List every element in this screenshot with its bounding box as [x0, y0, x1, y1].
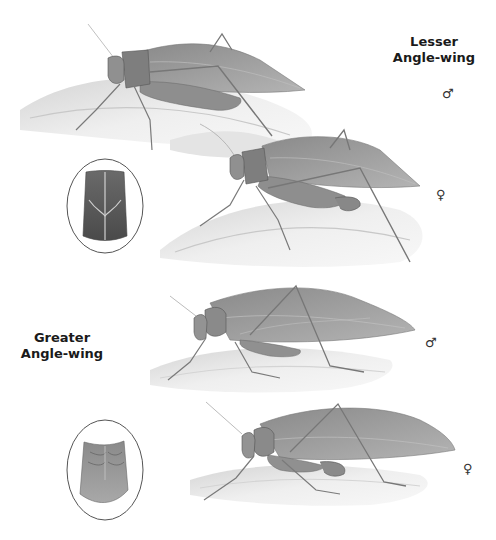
pronotum-detail [80, 441, 128, 503]
illustration-plate [0, 0, 496, 540]
pronotum [205, 307, 226, 336]
greater-female-figure [190, 402, 455, 506]
head [194, 315, 207, 340]
antenna [170, 296, 196, 316]
species-label-greater-angle-wing: Greater Angle-wing [2, 330, 122, 362]
female-symbol-icon: ♀ [463, 462, 473, 475]
male-symbol-icon: ♂ [442, 87, 454, 100]
species-name-line2: Angle-wing [2, 346, 122, 362]
head [108, 56, 124, 83]
species-name-line2: Angle-wing [384, 50, 484, 66]
antenna [88, 24, 114, 58]
head [242, 433, 255, 458]
species-name-line1: Lesser [384, 34, 484, 50]
greater-male-figure [150, 286, 415, 392]
pronotum [242, 148, 268, 184]
lesser-pronotum-inset [67, 159, 143, 253]
antenna [206, 402, 242, 434]
greater-pronotum-inset [67, 420, 143, 520]
species-label-lesser-angle-wing: Lesser Angle-wing [384, 34, 484, 66]
pronotum [254, 427, 274, 456]
lesser-female-figure [160, 124, 423, 267]
pronotum [122, 50, 150, 88]
lesser-male-figure [20, 24, 312, 150]
female-symbol-icon: ♀ [436, 188, 446, 201]
species-name-line1: Greater [2, 330, 122, 346]
wing [260, 408, 455, 460]
head [230, 155, 244, 180]
male-symbol-icon: ♂ [425, 336, 437, 349]
